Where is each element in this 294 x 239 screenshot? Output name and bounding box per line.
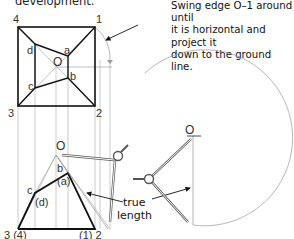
diagram-canvas: 4 1 3 2 O a b c d O b (a) <box>0 0 294 239</box>
corner-label-4: 4 <box>13 13 19 25</box>
corner-label-3: 3 <box>8 107 14 119</box>
true-length-arrow-left <box>87 193 123 202</box>
corner-label-1: 1 <box>96 13 102 25</box>
pyramid-development-diagram: development. Swing edge O–1 around until… <box>0 0 294 239</box>
apex-label-elevation: O <box>56 139 65 153</box>
plan-view: 4 1 3 2 O a b c d <box>8 13 113 119</box>
inner-label-a: a <box>64 44 71 56</box>
elev-label-c: c <box>27 184 33 196</box>
true-length-label-line1: true <box>123 196 146 209</box>
corner-label-2: 2 <box>96 107 102 119</box>
elev-label-a: (a) <box>57 175 70 187</box>
base-label-right: (1) 2 <box>79 229 102 239</box>
apex-label-plan: O <box>53 55 62 69</box>
elev-label-d: (d) <box>35 196 48 208</box>
note-arrow <box>106 25 138 40</box>
inner-label-b: b <box>70 70 76 82</box>
elevation-view: O b (a) c (d) 3 (4) (1) 2 <box>4 139 110 239</box>
elev-label-b: b <box>57 162 63 174</box>
inner-label-c: c <box>28 80 34 92</box>
true-length-label-line2: length <box>117 209 152 222</box>
inner-label-d: d <box>27 44 33 56</box>
apex-label-true-length: O <box>185 123 194 137</box>
base-label-left: 3 (4) <box>4 229 27 239</box>
